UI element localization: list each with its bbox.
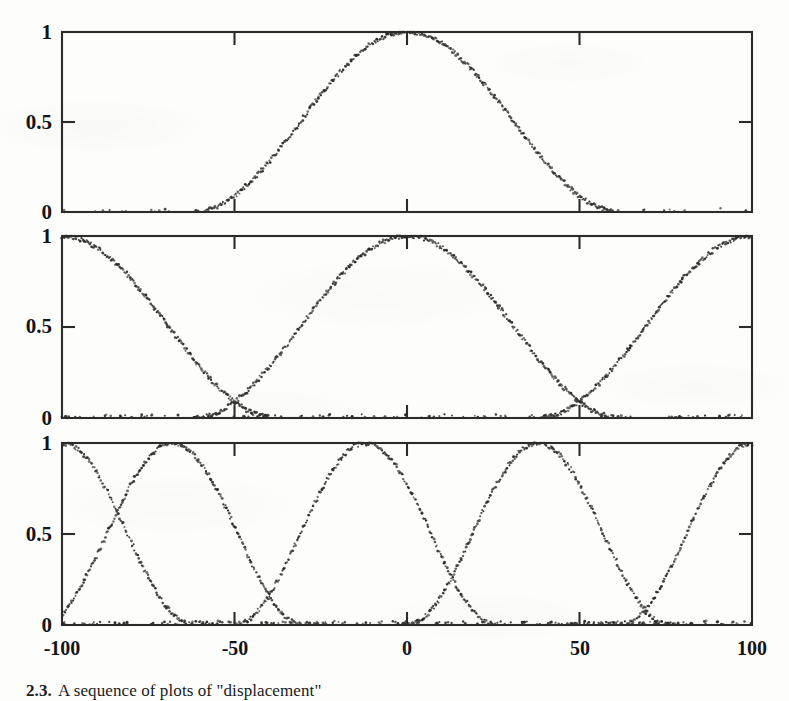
ytick-label-bottom-0.5: 0.5 bbox=[4, 524, 52, 545]
series-curve-5 bbox=[73, 442, 754, 626]
ytick-label-bottom-1: 1 bbox=[20, 433, 52, 454]
xtick-label-plus100: 100 bbox=[714, 638, 789, 658]
xtick-label-minus50: -50 bbox=[197, 638, 273, 658]
series-curve-3 bbox=[64, 442, 752, 626]
figure-page: 1 0.5 0 1 0.5 0 1 0.5 0 -100 -50 0 50 10… bbox=[0, 0, 789, 701]
series-curve-1 bbox=[60, 235, 735, 419]
xtick-label-plus50: 50 bbox=[542, 638, 618, 658]
series-curve-2 bbox=[61, 442, 735, 625]
plot-frame bbox=[62, 236, 752, 418]
xtick-label-zero: 0 bbox=[369, 638, 445, 658]
series-curve-2 bbox=[60, 235, 742, 419]
ytick-label-bottom-0: 0 bbox=[20, 615, 52, 636]
plot-panel-3-graphics bbox=[61, 442, 753, 626]
figure-caption: 2.3.A sequence of plots of "displacement… bbox=[26, 681, 766, 701]
ytick-label-middle-1: 1 bbox=[20, 226, 52, 247]
figure-caption-number: 2.3. bbox=[26, 681, 52, 700]
ytick-label-middle-0: 0 bbox=[20, 408, 52, 429]
ytick-label-top-0.5: 0.5 bbox=[4, 112, 52, 133]
series-curve-1 bbox=[61, 442, 722, 626]
plot-frame bbox=[62, 443, 752, 625]
series-curve-3 bbox=[64, 235, 753, 419]
series-curve-4 bbox=[62, 442, 752, 626]
xtick-label-minus100: -100 bbox=[24, 638, 100, 658]
series-curve-1 bbox=[63, 31, 747, 213]
plot-panel-1-graphics bbox=[62, 31, 752, 213]
ytick-label-middle-0.5: 0.5 bbox=[4, 316, 52, 337]
paper-grain-texture bbox=[0, 0, 789, 701]
ytick-label-top-1: 1 bbox=[20, 22, 52, 43]
ytick-label-top-0: 0 bbox=[20, 202, 52, 223]
figure-caption-text: A sequence of plots of "displacement" bbox=[58, 681, 322, 700]
plot-frame bbox=[62, 32, 752, 212]
plot-panel-2-graphics bbox=[60, 235, 753, 419]
